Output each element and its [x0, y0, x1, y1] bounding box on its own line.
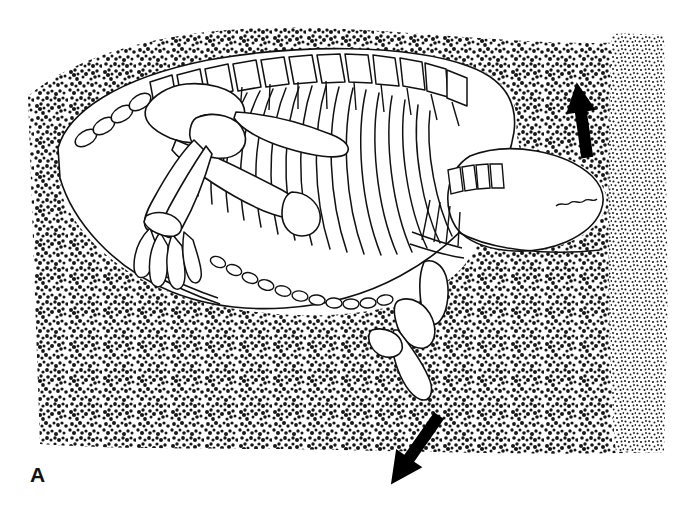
- whale-skeleton-illustration: [0, 0, 682, 531]
- figure-panel: A: [0, 0, 682, 531]
- panel-label: A: [30, 464, 46, 485]
